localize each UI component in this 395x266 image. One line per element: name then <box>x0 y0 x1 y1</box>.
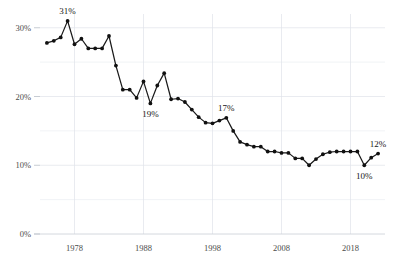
data-point <box>183 100 187 104</box>
data-point <box>176 97 180 101</box>
data-point <box>59 35 63 39</box>
data-point <box>162 71 166 75</box>
data-point <box>314 157 318 161</box>
data-point <box>342 150 346 154</box>
data-point <box>300 156 304 160</box>
data-point <box>190 108 194 112</box>
annotation-label: 31% <box>59 6 76 16</box>
data-point <box>93 46 97 50</box>
annotation-label: 10% <box>356 171 373 181</box>
data-point <box>73 42 77 46</box>
x-axis-tick-label: 2018 <box>342 243 359 253</box>
data-point <box>266 150 270 154</box>
x-axis-tick-label: 1978 <box>66 243 83 253</box>
y-axis-tick-label: 30% <box>15 23 31 33</box>
annotation-label: 19% <box>142 109 159 119</box>
data-point <box>211 121 215 125</box>
data-point <box>328 150 332 154</box>
line-chart: 0%10%20%30% 19781988199820082018 31%19%1… <box>0 0 395 266</box>
data-point <box>218 119 222 123</box>
data-point <box>142 79 146 83</box>
data-point <box>238 140 242 144</box>
data-point <box>231 129 235 133</box>
annotation-label: 12% <box>370 139 387 149</box>
data-point <box>100 46 104 50</box>
data-point <box>128 88 132 92</box>
data-point <box>135 96 139 100</box>
data-point <box>197 115 201 119</box>
data-point <box>149 101 153 105</box>
data-point <box>245 143 249 147</box>
data-point <box>204 121 208 125</box>
data-point <box>287 151 291 155</box>
data-point <box>293 156 297 160</box>
chart-canvas: 0%10%20%30% 19781988199820082018 31%19%1… <box>0 0 395 266</box>
data-point <box>376 152 380 156</box>
data-point <box>66 19 70 23</box>
y-axis-tick-label: 0% <box>20 229 31 239</box>
data-point <box>52 39 56 43</box>
data-point <box>362 163 366 167</box>
data-point <box>80 37 84 41</box>
data-point <box>280 151 284 155</box>
data-point <box>121 88 125 92</box>
annotation-label: 17% <box>218 103 235 113</box>
y-axis-tick-label: 20% <box>15 92 31 102</box>
data-point <box>107 34 111 38</box>
data-point <box>45 41 49 45</box>
data-point <box>252 145 256 149</box>
data-point <box>259 145 263 149</box>
data-point <box>86 46 90 50</box>
x-axis-tick-label: 1988 <box>135 243 152 253</box>
data-point <box>335 150 339 154</box>
data-point <box>155 84 159 88</box>
chart-background <box>0 0 395 266</box>
data-point <box>114 64 118 68</box>
data-point <box>321 152 325 156</box>
data-point <box>307 163 311 167</box>
y-axis-tick-label: 10% <box>15 160 31 170</box>
data-point <box>356 150 360 154</box>
data-point <box>224 116 228 120</box>
data-point <box>169 97 173 101</box>
x-axis-tick-label: 2008 <box>273 243 290 253</box>
x-axis-tick-label: 1998 <box>204 243 221 253</box>
data-point <box>369 156 373 160</box>
data-point <box>349 150 353 154</box>
data-point <box>273 150 277 154</box>
